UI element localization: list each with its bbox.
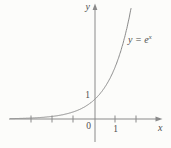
y-axis-label: y <box>85 1 91 12</box>
x-axis-label: x <box>157 122 163 133</box>
x-tick-label-1: 1 <box>113 124 118 134</box>
annotation-sup: x <box>148 33 152 40</box>
exponential-function-figure: y x 0 1 1 y = ex <box>0 0 171 148</box>
origin-label: 0 <box>86 121 91 131</box>
annotation-eq: = <box>132 34 144 45</box>
x-axis-arrowhead-icon <box>156 117 163 122</box>
y-axis-arrowhead-icon <box>93 4 98 11</box>
plot-canvas: y x 0 1 1 y = ex <box>0 0 171 148</box>
exp-curve <box>10 8 131 119</box>
curve-annotation: y = ex <box>127 33 152 45</box>
y-tick-label-1: 1 <box>85 90 90 100</box>
